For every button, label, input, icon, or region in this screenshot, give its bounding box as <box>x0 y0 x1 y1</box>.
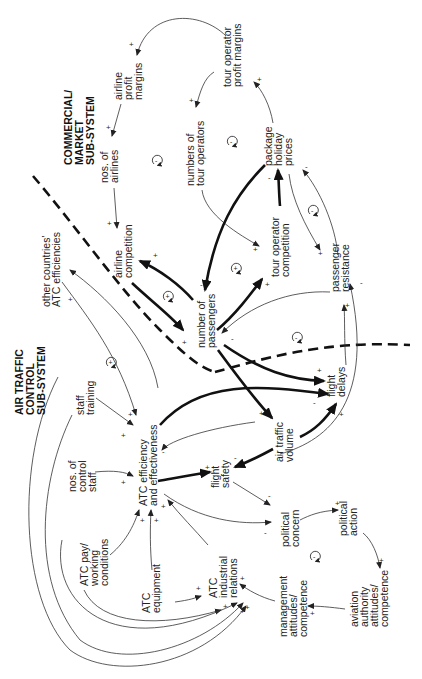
node-atc-industrial-relations: ATC industrial relations <box>207 556 239 598</box>
svg-text:+: + <box>317 366 322 375</box>
node-other-countries-atc: other countries' ATC efficiencies <box>40 232 62 307</box>
svg-text:concern: concern <box>289 509 301 547</box>
svg-text:competence: competence <box>378 570 390 627</box>
svg-text:+: + <box>345 301 350 310</box>
subsystem-title-atc: AIR TRAFFIC CONTROL SUB-SYSTEM <box>13 346 47 415</box>
node-political-action: political action <box>337 501 359 536</box>
node-nos-of-airlines: nos. of airlines <box>98 150 120 183</box>
svg-text:+: + <box>259 409 264 418</box>
node-tour-operator-competition: tour operator competition <box>269 216 291 277</box>
svg-text:ATC efficiencies: ATC efficiencies <box>50 232 62 307</box>
node-airline-profit-margins: airline profit margins <box>112 63 144 100</box>
svg-text:-: - <box>295 334 298 341</box>
svg-text:-: - <box>155 157 158 164</box>
svg-text:relations: relations <box>227 558 239 598</box>
svg-text:+: + <box>109 359 113 366</box>
svg-text:equipment: equipment <box>150 564 162 613</box>
svg-text:action: action <box>347 508 359 536</box>
svg-text:+: + <box>153 251 158 260</box>
svg-text:tour operators: tour operators <box>194 121 206 186</box>
svg-text:+: + <box>245 603 250 612</box>
svg-text:+: + <box>318 249 323 258</box>
node-airline-competition: airline competition <box>112 224 134 278</box>
svg-text:competition: competition <box>122 224 134 278</box>
node-flight-safety: flight safety <box>209 459 231 488</box>
svg-text:+: + <box>140 516 145 525</box>
subsystem-title-commercial: COMMERCIAL/ MARKET SUB-SYSTEM <box>62 90 96 165</box>
node-flight-delays: flight delays <box>325 367 347 397</box>
svg-text:safety: safety <box>219 459 231 488</box>
node-atc-pay: ATC pay/ working conditions <box>78 539 110 587</box>
loop-marker-tour-op-competition: + <box>231 263 241 273</box>
svg-text:conditions: conditions <box>98 539 110 586</box>
svg-text:-: - <box>162 447 165 456</box>
svg-text:+: + <box>121 478 126 487</box>
svg-text:resistance: resistance <box>339 244 351 292</box>
svg-text:-: - <box>230 138 233 145</box>
thick-links <box>132 165 336 481</box>
svg-text:+: + <box>107 219 112 228</box>
node-package-holiday-prices: package holiday prices <box>262 126 294 166</box>
svg-text:-: - <box>360 278 363 287</box>
svg-text:+: + <box>161 502 166 511</box>
svg-text:staff: staff <box>86 472 98 492</box>
svg-text:+: + <box>240 574 245 583</box>
node-atc-equipment: ATC equipment <box>140 564 162 613</box>
svg-text:-: - <box>234 453 237 462</box>
svg-text:+: + <box>253 245 258 254</box>
svg-text:airlines: airlines <box>108 150 120 183</box>
svg-text:and effectiveness: and effectiveness <box>147 424 159 506</box>
svg-text:+: + <box>196 584 201 593</box>
svg-text:+: + <box>257 75 262 84</box>
svg-text:training: training <box>84 380 96 415</box>
node-number-of-passengers: number of passengers <box>195 294 217 348</box>
svg-text:+: + <box>128 410 133 419</box>
loop-marker-airline-competition: + <box>163 291 173 301</box>
causal-loop-diagram: + + + + + + - - + - + - + + + - + - + + … <box>0 0 422 679</box>
svg-text:+: + <box>234 265 238 272</box>
svg-text:competence: competence <box>297 580 309 637</box>
svg-text:SUB-SYSTEM: SUB-SYSTEM <box>84 96 96 165</box>
svg-text:-: - <box>200 280 203 289</box>
svg-text:passengers: passengers <box>205 294 217 348</box>
svg-text:+: + <box>265 280 270 289</box>
svg-text:+: + <box>68 295 73 304</box>
svg-text:+: + <box>129 40 134 49</box>
svg-text:+: + <box>121 431 126 440</box>
node-staff-training: staff training <box>74 380 96 415</box>
svg-text:prices: prices <box>282 138 294 166</box>
node-political-concern: political concern <box>279 509 301 547</box>
node-atc-efficiency: ATC efficiency and effectiveness <box>137 424 159 506</box>
svg-text:-: - <box>313 398 316 407</box>
node-passenger-resistance: passenger resistance <box>329 242 351 292</box>
node-tour-operator-profit-margins: tour operator profit margins <box>221 23 243 87</box>
svg-text:margins: margins <box>132 63 144 100</box>
svg-text:-: - <box>268 491 271 500</box>
svg-text:-: - <box>264 528 267 537</box>
svg-text:-: - <box>305 162 308 171</box>
node-aviation-authority: aviation authority attitudes/ competence <box>348 570 390 627</box>
loop-marker-flight-delays: - <box>292 332 302 342</box>
node-numbers-of-tour-operators: numbers of tour operators <box>184 121 206 186</box>
svg-text:+: + <box>379 556 384 565</box>
svg-text:+: + <box>182 338 187 347</box>
loop-marker-passenger-resistance: - <box>308 205 318 215</box>
svg-text:-: - <box>311 207 314 214</box>
loop-marker-airlines: - <box>152 155 162 165</box>
svg-text:+: + <box>106 123 111 132</box>
svg-text:+: + <box>189 96 194 105</box>
subsystem-boundary <box>33 176 410 372</box>
loop-marker-political: - <box>310 551 320 561</box>
node-nos-of-control-staff: nos. of control staff <box>66 460 98 492</box>
svg-text:competition: competition <box>279 223 291 277</box>
svg-text:-: - <box>313 553 316 560</box>
svg-text:+: + <box>166 293 170 300</box>
loop-marker-tour-operators: - <box>227 136 237 146</box>
svg-text:profit margins: profit margins <box>231 23 243 87</box>
svg-text:volume: volume <box>283 428 295 462</box>
svg-text:-: - <box>231 334 234 343</box>
svg-text:SUB-SYSTEM: SUB-SYSTEM <box>35 346 47 415</box>
svg-text:+: + <box>223 602 228 611</box>
svg-text:+: + <box>310 609 315 618</box>
svg-text:delays: delays <box>335 367 347 397</box>
